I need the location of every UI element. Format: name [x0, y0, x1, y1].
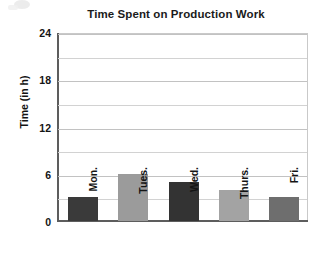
gridline-minor	[58, 105, 307, 106]
gridline-minor	[58, 58, 307, 59]
chart-title: Time Spent on Production Work	[0, 8, 326, 20]
y-tick-label: 24	[11, 27, 51, 39]
gridline-minor	[58, 152, 307, 153]
y-tick-label: 0	[11, 216, 51, 228]
chart-screenshot: Time Spent on Production Work Time (in h…	[0, 0, 326, 273]
gridline-major	[58, 129, 307, 130]
y-tick-label: 18	[11, 74, 51, 86]
gridline-major	[58, 34, 307, 35]
x-tick-label: Thurs.	[238, 167, 250, 227]
gridline-major	[58, 81, 307, 82]
x-tick-label: Mon.	[87, 167, 99, 227]
x-tick-label: Wed.	[188, 167, 200, 227]
y-axis-line	[57, 33, 59, 222]
y-tick-label: 6	[11, 169, 51, 181]
y-tick-label: 12	[11, 122, 51, 134]
x-tick-label: Tues.	[137, 167, 149, 227]
x-tick-label: Fri.	[288, 167, 300, 227]
